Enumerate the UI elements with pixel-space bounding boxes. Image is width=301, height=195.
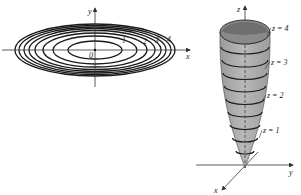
x-axis-label: x [185,52,190,61]
trace-label: z = 4 [271,24,289,33]
figure-canvas: x y 0 1234 z y x z = 4z = 3z = 2z = 1 [0,0,301,195]
trace-label: z = 2 [266,91,284,100]
level-label: 4 [167,35,171,44]
origin-label: 0 [89,51,93,60]
leader-line [259,130,262,138]
figure: x y 0 1234 z y x z = 4z = 3z = 2z = 1 [0,0,301,195]
trace-label: z = 1 [262,126,280,135]
origin-dot [94,49,96,51]
trace-label: z = 3 [270,58,288,67]
level-label: 1 [122,36,126,45]
y-axis-label-3d: y [288,168,293,177]
contour-plot: x y 0 1234 [2,7,190,87]
x-axis-label-3d: x [213,186,218,195]
z-axis-label: z [236,5,241,14]
y-axis-label: y [87,7,92,16]
level-label: 2 [143,37,147,46]
level-label: 3 [154,36,159,45]
x-axis-3d [222,152,258,190]
surface-plot: z y x z = 4z = 3z = 2z = 1 [196,5,293,195]
